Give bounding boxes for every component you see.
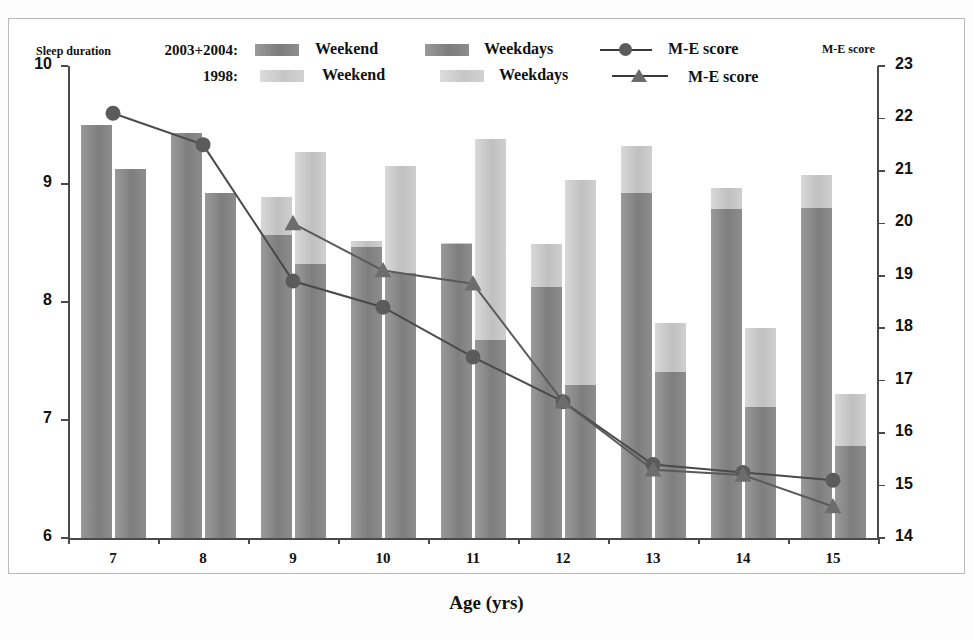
y-axis-right-label: 16	[895, 422, 925, 440]
y-axis-left-label: 6	[22, 527, 52, 545]
y-axis-left-tick	[61, 183, 68, 185]
bar-weekdays-2003	[205, 193, 236, 538]
legend-label-weekdays-1998: Weekdays	[499, 66, 568, 84]
legend-label-me-1998: M-E score	[688, 68, 758, 86]
legend-label-me-2003: M-E score	[668, 40, 738, 58]
y-axis-right-tick	[878, 118, 885, 120]
y-axis-left-tick	[61, 419, 68, 421]
x-axis-label: 9	[270, 550, 316, 567]
y-axis-right-line	[877, 66, 879, 539]
x-axis-line	[68, 538, 879, 540]
legend-group-1998-label: 1998:	[146, 68, 238, 85]
bar-weekdays-2003	[835, 446, 866, 538]
x-axis-tick	[878, 538, 880, 544]
x-axis-tick	[698, 538, 700, 544]
y-axis-right-label: 15	[895, 475, 925, 493]
x-axis-label: 11	[450, 550, 496, 567]
x-axis-label: 10	[360, 550, 406, 567]
legend-swatch-weekend-2003	[255, 44, 299, 56]
bar-weekend-2003	[801, 208, 832, 538]
x-axis-label: 14	[720, 550, 766, 567]
bar-weekdays-2003	[295, 264, 326, 538]
y-axis-right-tick	[878, 275, 885, 277]
y-axis-left-tick	[61, 301, 68, 303]
y-axis-left-label: 8	[22, 291, 52, 309]
y-axis-left-label: 7	[22, 409, 52, 427]
x-axis-label: 7	[90, 550, 136, 567]
bar-weekdays-2003	[565, 385, 596, 538]
x-axis-tick	[248, 538, 250, 544]
legend-row-1998: 1998: Weekend Weekdays M-E score	[150, 64, 850, 90]
bar-weekend-2003	[531, 287, 562, 538]
y-axis-right-tick	[878, 170, 885, 172]
y-axis-right-tick	[878, 65, 885, 67]
y-axis-right-label: 21	[895, 160, 925, 178]
x-axis-tick	[68, 538, 70, 544]
legend-swatch-weekdays-1998	[440, 70, 484, 82]
bar-weekend-2003	[711, 209, 742, 538]
legend-swatch-weekdays-2003	[425, 44, 469, 56]
chart-legend: 2003+2004: Weekend Weekdays M-E score 19…	[150, 38, 850, 94]
bar-weekdays-2003	[475, 340, 506, 538]
x-axis-label: 8	[180, 550, 226, 567]
y-axis-right-tick	[878, 223, 885, 225]
x-axis-tick	[158, 538, 160, 544]
bar-weekdays-2003	[655, 372, 686, 538]
y-axis-right-label: 18	[895, 317, 925, 335]
y-axis-right-label: 23	[895, 55, 925, 73]
y-axis-left-line	[68, 66, 70, 539]
y-axis-right-tick	[878, 327, 885, 329]
bar-weekend-2003	[621, 193, 652, 538]
y-axis-left-label: 9	[22, 173, 52, 191]
y-axis-left-tick	[61, 65, 68, 67]
bar-weekdays-2003	[115, 169, 146, 538]
y-axis-right-label: 19	[895, 265, 925, 283]
x-axis-title: Age (yrs)	[0, 592, 973, 614]
y-axis-right-label: 20	[895, 212, 925, 230]
legend-row-2003: 2003+2004: Weekend Weekdays M-E score	[150, 38, 850, 64]
y-axis-right-label: 22	[895, 107, 925, 125]
x-axis-tick	[518, 538, 520, 544]
bar-weekend-2003	[81, 125, 112, 538]
x-axis-label: 15	[810, 550, 856, 567]
y-axis-right-tick	[878, 485, 885, 487]
legend-label-weekdays-2003: Weekdays	[484, 40, 553, 58]
bar-weekend-2003	[351, 247, 382, 538]
legend-circle-marker-icon	[619, 43, 632, 56]
y-axis-right-label: 14	[895, 527, 925, 545]
y-axis-right-tick	[878, 432, 885, 434]
x-axis-label: 13	[630, 550, 676, 567]
x-axis-label: 12	[540, 550, 586, 567]
bar-weekdays-2003	[385, 273, 416, 539]
y-axis-left-label: 10	[22, 55, 52, 73]
legend-label-weekend-1998: Weekend	[322, 66, 385, 84]
legend-label-weekend-2003: Weekend	[315, 40, 378, 58]
bar-weekend-2003	[171, 133, 202, 538]
legend-triangle-marker-icon	[631, 69, 647, 82]
bar-weekend-2003	[441, 244, 472, 538]
legend-swatch-weekend-1998	[260, 70, 304, 82]
bar-weekdays-2003	[745, 407, 776, 538]
legend-group-2003-label: 2003+2004:	[146, 42, 238, 59]
x-axis-tick	[608, 538, 610, 544]
x-axis-tick	[788, 538, 790, 544]
x-axis-tick	[338, 538, 340, 544]
x-axis-tick	[428, 538, 430, 544]
bar-weekend-2003	[261, 235, 292, 538]
y-axis-right-tick	[878, 380, 885, 382]
y-axis-right-label: 17	[895, 370, 925, 388]
y-axis-left-tick	[61, 537, 68, 539]
chart-page: Sleep duration M-E score Age (yrs) 2003+…	[0, 0, 973, 640]
